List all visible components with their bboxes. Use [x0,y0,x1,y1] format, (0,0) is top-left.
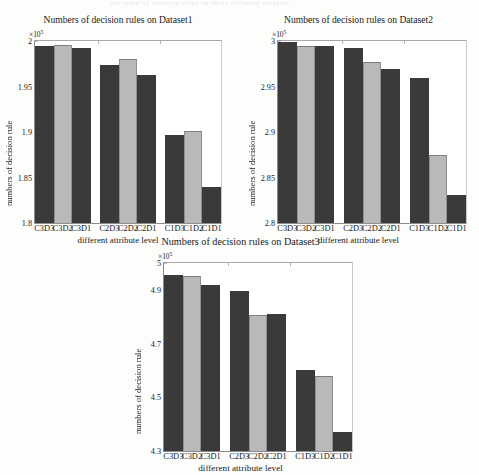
bar [230,291,249,451]
x-axis-tick-label: C3D1 [71,224,91,233]
bar [183,276,202,451]
x-axis-tick-label: C1D2 [314,452,334,461]
bar-series: 2.82.852.92.953C3D3C3D2C3D1C2D3C2D2C2D1C… [278,41,466,223]
y-axis-tick-label: 1.8 [22,219,35,228]
y-axis-label: numbers of decision rule [4,54,14,206]
chart-title: Numbers of decision rules on Dataset1 [2,14,234,25]
bar [267,314,286,451]
chart-panel-dataset2: Numbers of decision rules on Dataset2 ×1… [240,14,477,236]
bar [72,48,91,223]
x-axis-tick-label: C3D1 [201,452,221,461]
y-axis-tick-label: 2.8 [265,219,278,228]
y-axis-tick-label: 2.9 [265,128,278,137]
bar [315,46,334,223]
x-axis-tick-label: C2D2 [248,452,268,461]
chart-title: Numbers of decision rules on Dataset2 [240,14,477,25]
x-axis-tick-label: C2D1 [137,224,157,233]
top-axis-tick-mark [342,41,343,44]
x-axis-tick-label: C2D3 [229,452,249,461]
x-axis-tick-label: C3D1 [315,224,335,233]
chart-panel-dataset3: Numbers of decision rules on Dataset3 ×1… [118,236,363,474]
y-axis-tick-label: 4.9 [151,285,164,294]
y-axis-tick-label: 2.85 [261,173,278,182]
x-axis-tick-label: C3D3 [277,224,297,233]
bar [201,285,220,451]
bar [164,275,183,451]
bar-series: 1.81.851.91.952C3D3C3D2C3D1C2D3C2D2C2D1C… [35,41,221,223]
x-axis-tick-label: C2D2 [362,224,382,233]
x-axis-tick-label: C2D3 [99,224,119,233]
top-axis-tick-mark [160,41,161,44]
top-axis-tick-mark [98,41,99,44]
bar [35,46,54,223]
chart-title: Numbers of decision rules on Dataset3 [118,236,363,247]
x-axis-tick-label: C1D2 [428,224,448,233]
plot-area: 1.81.851.91.952C3D3C3D2C3D1C2D3C2D2C2D1C… [34,40,222,224]
scan-bleed-text: the tenth of decision rules on three dif… [110,0,410,11]
y-axis-tick-label: 4.5 [151,393,164,402]
bar [315,376,334,451]
bar [447,195,466,223]
bar [381,69,400,223]
y-axis-label: numbers of decision rule [133,276,143,434]
x-axis-tick-label: C2D3 [343,224,363,233]
bar [410,78,429,223]
bar [333,432,352,451]
bar [202,187,221,223]
bar [119,59,138,223]
plot-area: 2.82.852.92.953C3D3C3D2C3D1C2D3C2D2C2D1C… [277,40,467,224]
x-axis-tick-label: C1D1 [333,452,353,461]
top-axis-tick-mark [228,263,229,266]
y-axis-tick-label: 2.95 [261,82,278,91]
x-axis-tick-label: C1D3 [409,224,429,233]
x-axis-tick-label: C3D2 [53,224,73,233]
x-axis-tick-label: C3D2 [296,224,316,233]
top-axis-tick-mark [404,41,405,44]
x-axis-tick-label: C3D3 [163,452,183,461]
bar [296,370,315,451]
bar [344,48,363,223]
x-axis-tick-label: C1D1 [447,224,467,233]
chart-panel-dataset1: Numbers of decision rules on Dataset1 ×1… [2,14,234,236]
bar [100,65,119,223]
y-axis-tick-label: 5 [157,259,164,268]
bar [363,62,382,223]
x-axis-tick-label: C1D3 [165,224,185,233]
bar [54,45,73,223]
top-axis-tick-mark [290,263,291,266]
y-axis-tick-label: 2 [28,37,35,46]
x-axis-tick-label: C1D1 [202,224,222,233]
y-axis-tick-label: 1.9 [22,128,35,137]
x-axis-tick-label: C1D3 [295,452,315,461]
bar [297,46,316,223]
y-axis-tick-mark [164,263,167,264]
y-axis-tick-label: 1.85 [18,173,35,182]
bar [165,135,184,223]
y-axis-tick-label: 4.7 [151,339,164,348]
y-axis-tick-mark [35,41,38,42]
y-axis-tick-label: 4.3 [151,447,164,456]
y-axis-label: numbers of decision rule [247,54,257,206]
x-axis-tick-label: C2D2 [118,224,138,233]
bar [137,75,156,223]
x-axis-tick-label: C2D1 [267,452,287,461]
x-axis-tick-label: C3D2 [182,452,202,461]
bar [278,42,297,223]
bar [429,155,448,223]
x-axis-tick-label: C2D1 [381,224,401,233]
x-axis-label: different attribute level [118,463,363,473]
x-axis-tick-label: C3D3 [34,224,54,233]
y-axis-tick-label: 3 [271,37,278,46]
y-axis-tick-label: 1.95 [18,82,35,91]
plot-area: 4.34.54.74.95C3D3C3D2C3D1C2D3C2D2C2D1C1D… [163,262,353,452]
x-axis-tick-label: C1D2 [183,224,203,233]
bar-series: 4.34.54.74.95C3D3C3D2C3D1C2D3C2D2C2D1C1D… [164,263,352,451]
bar [249,315,268,451]
bar [184,131,203,223]
